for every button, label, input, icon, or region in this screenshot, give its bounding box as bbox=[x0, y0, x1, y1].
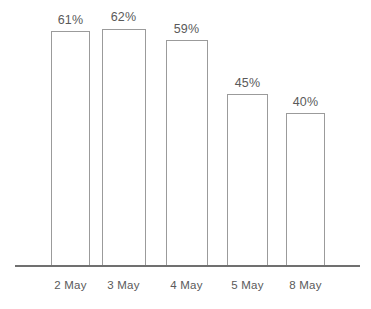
bar-4-may bbox=[166, 40, 208, 266]
x-axis-label-4-may: 4 May bbox=[153, 279, 220, 291]
bar-chart: 61% 62% 59% 45% 40% 2 May 3 May 4 May 5 … bbox=[0, 0, 371, 309]
bar-value-label: 62% bbox=[90, 10, 157, 24]
bar-value-label: 40% bbox=[272, 95, 339, 109]
bar-5-may bbox=[227, 94, 268, 266]
bar-3-may bbox=[102, 29, 146, 266]
bar-2-may bbox=[51, 31, 90, 266]
bar-value-label: 59% bbox=[153, 22, 220, 36]
x-axis-label-8-may: 8 May bbox=[272, 279, 339, 291]
plot-area: 61% 62% 59% 45% 40% 2 May 3 May 4 May 5 … bbox=[0, 0, 371, 309]
bar-8-may bbox=[286, 113, 325, 266]
x-axis-line bbox=[15, 265, 360, 267]
x-axis-label-3-may: 3 May bbox=[90, 279, 157, 291]
x-axis-label-5-may: 5 May bbox=[214, 279, 281, 291]
bar-value-label: 45% bbox=[214, 76, 281, 90]
